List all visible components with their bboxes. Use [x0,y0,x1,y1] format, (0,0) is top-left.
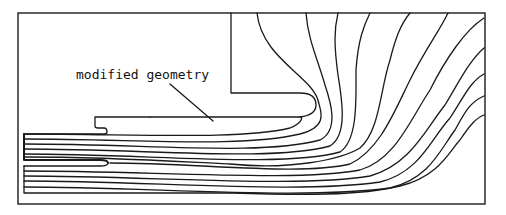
field-line-diagram: modified geometry [0,0,506,215]
field-line [230,115,484,194]
field-line [24,13,410,166]
upper-electrode [150,13,316,117]
inner-rod-lower-edge [24,163,108,166]
field-line [24,117,302,136]
field-lines [24,13,484,194]
field-line [24,13,342,154]
lower-plate-with-notch [24,117,150,134]
field-line [24,18,484,176]
label-pointer-line [170,84,213,121]
field-line [24,13,370,160]
field-line [24,74,484,187]
modified-geometry-label: modified geometry [76,67,209,82]
